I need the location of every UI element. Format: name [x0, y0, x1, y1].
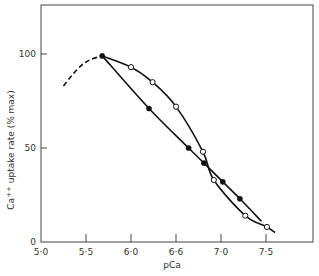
series-line	[102, 56, 275, 233]
filled-circle-point	[220, 179, 225, 184]
y-tick-label: 0	[30, 237, 36, 247]
y-axis-title: Ca++ uptake rate (% max)	[5, 90, 16, 209]
x-tick-label: 5·5	[79, 247, 93, 257]
filled-circle-point	[146, 106, 151, 111]
filled-circle-point	[201, 160, 206, 165]
x-tick-label: 7·0	[214, 247, 229, 257]
open-circle-point	[128, 65, 133, 70]
x-tick-label: 6·6	[169, 247, 184, 257]
x-tick-label: 6·0	[124, 247, 139, 257]
filled-circle-point	[100, 53, 105, 58]
x-axis-title: pCa	[163, 260, 181, 270]
open-circle-point	[243, 213, 248, 218]
series-line	[102, 56, 261, 221]
open-circle-point	[264, 224, 269, 229]
series-line	[64, 56, 103, 86]
plot-frame	[41, 5, 313, 242]
open-circle-point	[211, 177, 216, 182]
filled-circle-point	[237, 196, 242, 201]
filled-circle-point	[186, 145, 191, 150]
chart: 5·05·56·06·67·07·5 050100 pCa Ca++ uptak…	[0, 0, 319, 276]
y-tick-label: 50	[25, 143, 37, 153]
open-circle-point	[150, 80, 155, 85]
open-circle-point	[173, 104, 178, 109]
x-tick-label: 5·0	[34, 247, 49, 257]
y-tick-label: 100	[19, 49, 36, 59]
open-circle-point	[200, 149, 205, 154]
x-tick-label: 7·5	[259, 247, 273, 257]
